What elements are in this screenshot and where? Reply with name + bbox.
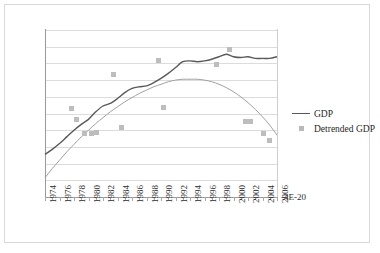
chart-legend: GDP Detrended GDP <box>291 106 375 136</box>
scatter-marker <box>261 131 266 136</box>
scatter-marker <box>119 125 124 130</box>
scatter-marker <box>74 117 79 122</box>
scatter-marker <box>82 131 87 136</box>
legend-label-gdp: GDP <box>311 109 333 119</box>
legend-square-icon <box>291 126 311 131</box>
legend-label-detrended-gdp: Detrended GDP <box>311 124 375 134</box>
scatter-marker <box>156 58 161 63</box>
scatter-marker <box>161 105 166 110</box>
scatter-marker <box>214 62 219 67</box>
detrended-gdp-markers <box>45 30 277 197</box>
legend-line-icon <box>291 113 311 114</box>
zero-annotation: -4E-20 <box>281 192 306 202</box>
scatter-marker <box>248 119 253 124</box>
scatter-marker <box>94 130 99 135</box>
scatter-marker <box>69 106 74 111</box>
gdp-detrended-chart: 1919.219.419.619.82020.220.420.620.821 1… <box>0 0 380 253</box>
legend-item-detrended-gdp: Detrended GDP <box>291 121 375 136</box>
legend-item-gdp: GDP <box>291 106 375 121</box>
scatter-marker <box>267 138 272 143</box>
scatter-marker <box>111 72 116 77</box>
scatter-marker <box>227 47 232 52</box>
